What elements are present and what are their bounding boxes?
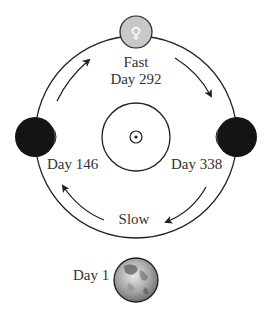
venus-orbit-diagram: ♀ Fast Day 292 Day 146 Day 338 Slow Day … bbox=[0, 0, 271, 318]
label-day-292: Day 292 bbox=[110, 71, 161, 87]
earth-icon bbox=[114, 258, 158, 302]
label-day-1: Day 1 bbox=[73, 267, 109, 283]
sun-icon bbox=[130, 131, 142, 143]
label-fast: Fast bbox=[123, 54, 149, 70]
label-day-338: Day 338 bbox=[171, 156, 222, 172]
label-day-146: Day 146 bbox=[47, 156, 99, 172]
arrow-lower-left bbox=[63, 186, 104, 220]
venus-top: ♀ bbox=[120, 16, 152, 48]
label-slow: Slow bbox=[119, 211, 150, 227]
venus-symbol-icon: ♀ bbox=[131, 24, 142, 42]
arrow-upper-left bbox=[57, 60, 89, 101]
arrow-lower-right bbox=[166, 187, 206, 222]
venus-left bbox=[15, 117, 56, 157]
venus-right bbox=[216, 117, 257, 157]
